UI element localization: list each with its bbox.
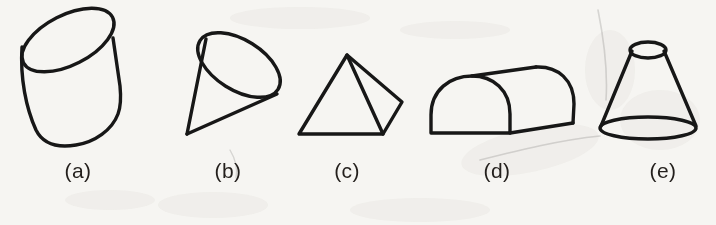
shape-label-e: (e): [650, 159, 677, 182]
shape-label-d: (d): [484, 159, 511, 182]
figure-container: (a) (b) (c) (d) (e): [0, 0, 716, 225]
geometric-solids-figure: (a) (b) (c) (d) (e): [0, 0, 716, 225]
shape-label-b: (b): [215, 159, 242, 182]
shape-label-a: (a): [65, 159, 92, 182]
shape-label-c: (c): [334, 159, 360, 182]
